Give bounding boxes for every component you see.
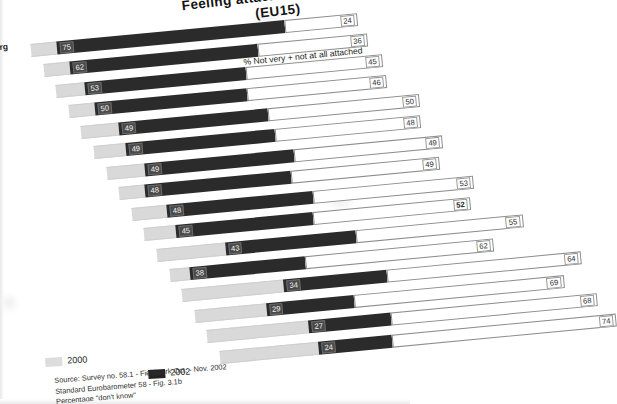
bar-value-2002: 49 [147, 162, 161, 175]
bar-segment-2000 [156, 242, 226, 261]
bar-value-2002: 24 [321, 341, 335, 354]
bar-value-2002: 45 [179, 224, 193, 237]
bar-segment-2002: 24 [318, 335, 392, 355]
bar-segment-not-attached: 36 [257, 34, 368, 57]
bar-value-not-attached: 24 [340, 14, 355, 27]
bar-value-2002: 75 [60, 41, 74, 54]
bar-value-not-attached: 64 [564, 253, 579, 266]
bar-value-2002: 62 [72, 61, 86, 74]
bar-segment-2002: 38 [189, 256, 306, 280]
bar-segment-2000 [144, 225, 177, 241]
bar-segment-2000 [106, 163, 145, 180]
bar-value-2002: 49 [122, 121, 136, 134]
bar-value-2002: 48 [169, 204, 183, 217]
bar-value-2002: 50 [97, 102, 111, 115]
bar-segment-2000 [182, 280, 285, 303]
bar-segment-2000 [93, 143, 126, 159]
bar-value-2002: 48 [148, 184, 162, 197]
bar-segment-not-attached: 48 [274, 115, 421, 142]
bar-segment-2000 [207, 321, 310, 344]
legend-label-2000: 2000 [67, 354, 88, 365]
bar-value-not-attached: 62 [475, 239, 490, 252]
bar-value-2002: 34 [287, 279, 301, 292]
bar-value-not-attached: 53 [456, 176, 471, 189]
legend-swatch-2000-icon [45, 356, 63, 366]
bar-segment-2000 [194, 303, 267, 323]
bar-segment-2000 [81, 122, 120, 139]
bar-segment-2000 [30, 42, 57, 57]
bar-segment-2002: 27 [309, 313, 392, 334]
bar-segment-2002: 48 [145, 171, 292, 198]
bar-segment-2002: 29 [266, 295, 355, 316]
bar-segment-not-attached: 24 [284, 13, 358, 33]
bar-segment-2000 [43, 62, 70, 77]
bar-value-not-attached: 55 [505, 215, 520, 228]
bar-segment-2000 [56, 82, 86, 98]
bar-value-not-attached: 50 [402, 95, 417, 108]
bar-value-not-attached: 49 [422, 158, 437, 171]
bar-value-not-attached: 48 [403, 116, 418, 129]
bar-value-not-attached: 36 [349, 35, 364, 48]
bar-value-not-attached: 49 [424, 136, 439, 149]
bar-value-not-attached: 46 [368, 76, 383, 89]
bar-value-2002: 49 [129, 142, 143, 155]
bar-segment-2002: 34 [284, 270, 388, 293]
bar-segment-2000 [169, 267, 190, 282]
bar-value-2002: 38 [192, 266, 206, 279]
bar-value-2002: 43 [228, 241, 242, 254]
bar-segment-not-attached: 49 [290, 157, 440, 184]
bar-value-not-attached: 52 [453, 198, 468, 211]
bar-segment-2000 [131, 204, 167, 220]
bar-segment-2002: 43 [225, 230, 357, 255]
bar-value-2002: 27 [312, 320, 326, 333]
bar-segment-2000 [68, 103, 95, 118]
bar-value-not-attached: 45 [365, 55, 380, 68]
bar-segment-not-attached: 46 [246, 75, 387, 101]
bar-segment-not-attached: 45 [246, 54, 384, 80]
bar-value-2002: 29 [269, 302, 283, 315]
bar-value-not-attached: 68 [580, 294, 595, 307]
bar-segment-2000 [119, 185, 146, 200]
bar-segment-2002: 45 [176, 212, 314, 238]
bar-value-not-attached: 69 [546, 276, 561, 289]
bar-value-not-attached: 74 [599, 314, 614, 327]
bar-value-2002: 53 [88, 81, 102, 94]
